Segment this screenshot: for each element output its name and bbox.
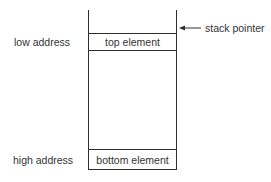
stack-pointer-arrow-icon: [178, 23, 204, 33]
top-element-cell: top element: [89, 36, 176, 48]
stack-right-wall: [176, 10, 177, 170]
bottom-element-upper-border: [88, 149, 177, 150]
low-address-label: low address: [14, 36, 70, 48]
top-element-upper-border: [88, 33, 177, 34]
bottom-element-cell: bottom element: [89, 154, 176, 166]
stack-diagram: low address high address top element bot…: [0, 0, 271, 182]
top-element-lower-border: [88, 50, 177, 51]
stack-pointer-label: stack pointer: [205, 22, 265, 34]
high-address-label: high address: [13, 154, 73, 166]
bottom-element-lower-border: [88, 169, 177, 170]
stack-left-wall: [88, 10, 89, 170]
